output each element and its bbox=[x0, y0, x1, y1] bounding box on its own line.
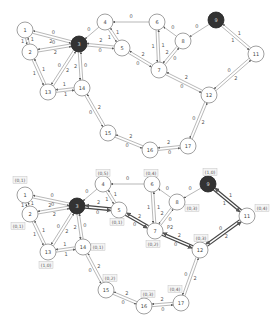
edge-weight: 2 bbox=[178, 232, 181, 238]
node-8: 8 bbox=[175, 33, 191, 49]
edge-weight: 1 bbox=[114, 191, 117, 197]
edge-weight: 2 bbox=[53, 211, 56, 217]
edge-weight: 1 bbox=[63, 241, 66, 247]
edge-weight: 0 bbox=[121, 299, 124, 305]
node-4: 4(0,5) bbox=[95, 170, 111, 193]
edge-weight: 2 bbox=[129, 133, 132, 139]
edge-2-1 bbox=[28, 38, 29, 44]
node-tag: (0,5) bbox=[98, 171, 109, 176]
node-label: 12 bbox=[197, 247, 203, 253]
node-label: 16 bbox=[147, 147, 153, 153]
edge-weight: 0 bbox=[83, 222, 86, 228]
edge-weight: 0 bbox=[168, 149, 171, 155]
edge-7-12 bbox=[166, 75, 202, 93]
edge-weight: 1 bbox=[238, 30, 241, 36]
node-label: 9 bbox=[206, 181, 209, 187]
node-label: 5 bbox=[120, 45, 123, 51]
edge-11-12 bbox=[206, 220, 240, 245]
node-tag: (1,0) bbox=[205, 170, 216, 175]
edge-weight: 0 bbox=[88, 267, 91, 273]
path-annotation: P2 bbox=[167, 224, 173, 230]
node-tag: (0,4) bbox=[170, 287, 181, 292]
node-1: 1 bbox=[17, 22, 33, 38]
edge-weight: 0 bbox=[126, 175, 129, 181]
edge-weight: 1 bbox=[105, 196, 108, 202]
node-tag: (0,2) bbox=[148, 242, 159, 247]
edge-weight: 1 bbox=[65, 251, 68, 257]
node-tag: (0,3) bbox=[187, 206, 198, 211]
edge-17-12 bbox=[192, 103, 207, 139]
edge-weight: 2 bbox=[66, 67, 69, 73]
node-tag: (0,1) bbox=[13, 224, 24, 229]
edge-weight: 2 bbox=[74, 63, 77, 69]
edge-weight: 2 bbox=[54, 49, 57, 55]
node-label: 6 bbox=[150, 181, 153, 187]
edge-weight: 0 bbox=[180, 83, 183, 89]
edge-weight: 2 bbox=[160, 210, 163, 216]
node-label: 3 bbox=[77, 41, 80, 47]
node-16: 16 bbox=[142, 142, 158, 158]
edge-weight: 0 bbox=[166, 185, 169, 191]
node-label: 13 bbox=[45, 89, 51, 95]
edge-weight: 1 bbox=[33, 70, 36, 76]
edge-5-7 bbox=[128, 53, 151, 67]
edge-weight: 0 bbox=[129, 13, 132, 19]
edge-weight: 2 bbox=[234, 75, 237, 81]
edge-17-16 bbox=[158, 146, 180, 148]
edge-weight: 2 bbox=[65, 228, 68, 234]
edge-weight: 2 bbox=[167, 139, 170, 145]
node-13: 13 bbox=[40, 84, 56, 100]
edge-14-13 bbox=[56, 88, 74, 90]
edge-weight: 0 bbox=[195, 23, 198, 29]
node-label: 9 bbox=[214, 17, 217, 23]
node-4: 4 bbox=[97, 14, 113, 30]
node-label: 14 bbox=[80, 244, 86, 250]
edge-weight: 1 bbox=[63, 81, 66, 87]
node-12: 12(0,3) bbox=[192, 235, 208, 259]
node-label: 8 bbox=[175, 199, 178, 205]
edge-weight: 1 bbox=[157, 204, 160, 210]
graph-diagram: 2020111120201100211002110020110202020202… bbox=[0, 0, 278, 326]
edge-weight: 2 bbox=[73, 224, 76, 230]
edge-9-11 bbox=[213, 190, 240, 212]
node-15: 15 bbox=[100, 125, 116, 141]
node-11: 11 bbox=[248, 46, 264, 62]
edge-weight: 2 bbox=[98, 104, 101, 110]
node-17: 17 bbox=[180, 138, 196, 154]
node-17: 17(0,4) bbox=[168, 286, 189, 312]
node-label: 17 bbox=[178, 300, 184, 306]
edge-weight: 1 bbox=[31, 36, 34, 42]
node-8: 8(0,3) bbox=[169, 194, 199, 212]
edge-weight: 2 bbox=[161, 296, 164, 302]
edge-weight: 0 bbox=[174, 241, 177, 247]
edge-9-8 bbox=[190, 24, 210, 36]
edge-weight: 0 bbox=[188, 185, 191, 191]
edge-6-7 bbox=[156, 30, 157, 62]
node-tag: (0,1) bbox=[15, 178, 26, 183]
node-tag: (0,4) bbox=[146, 171, 157, 176]
edge-weight: 2 bbox=[138, 213, 141, 219]
node-label: 1 bbox=[23, 192, 26, 198]
edge-weight: 0 bbox=[126, 142, 129, 148]
edge-9-8 bbox=[184, 188, 201, 198]
edge-6-7 bbox=[151, 192, 153, 223]
node-label: 17 bbox=[185, 143, 191, 149]
edge-weight: 1 bbox=[223, 200, 226, 206]
edge-weight: 2 bbox=[97, 263, 100, 269]
node-label: 4 bbox=[101, 181, 104, 187]
edge-weight: 0 bbox=[96, 209, 99, 215]
node-label: 5 bbox=[117, 207, 120, 213]
edge-weight: 1 bbox=[42, 66, 45, 72]
edge-1-2 bbox=[26, 203, 27, 207]
node-label: 11 bbox=[253, 51, 259, 57]
edge-weight: 0 bbox=[57, 223, 60, 229]
edge-weight: 0 bbox=[58, 62, 61, 68]
node-7: 7 bbox=[151, 62, 167, 78]
node-label: 13 bbox=[45, 249, 51, 255]
edge-weight: 2 bbox=[225, 233, 228, 239]
edge-weight: 1 bbox=[151, 43, 154, 49]
node-label: 4 bbox=[103, 19, 106, 25]
edge-5-7 bbox=[125, 215, 147, 228]
node-label: 8 bbox=[181, 38, 184, 44]
node-13: 13(1,0) bbox=[39, 244, 56, 269]
